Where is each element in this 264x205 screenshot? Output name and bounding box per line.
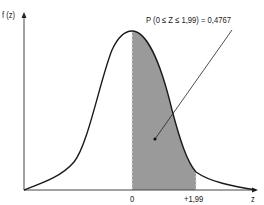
tick-label-zero: 0 <box>130 194 134 204</box>
y-axis-label: f (z) <box>2 10 15 20</box>
annotation-text: P (0 ≤ Z ≤ 1,99) = 0,4767 <box>146 15 231 25</box>
y-axis-arrow-icon <box>22 12 27 18</box>
x-axis-label: z <box>251 194 255 204</box>
annotation-pointer-dot-icon <box>153 137 156 140</box>
normal-distribution-figure <box>0 0 264 205</box>
annotation-pointer <box>155 30 232 139</box>
tick-label-1-99: +1,99 <box>184 194 203 204</box>
shaded-area <box>132 31 196 190</box>
